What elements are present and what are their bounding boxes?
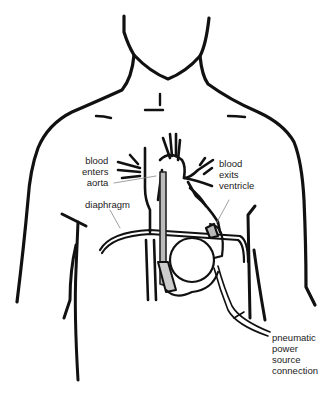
label-blood-enters-aorta: blood enters aorta xyxy=(82,155,108,188)
clavicles xyxy=(96,94,245,118)
label-blood-exits-ventricle: blood exits ventricle xyxy=(219,158,254,191)
label-pneumatic-power-source-connection: pneumatic power source connection xyxy=(272,332,318,376)
label-diaphragm: diaphragm xyxy=(85,199,130,210)
